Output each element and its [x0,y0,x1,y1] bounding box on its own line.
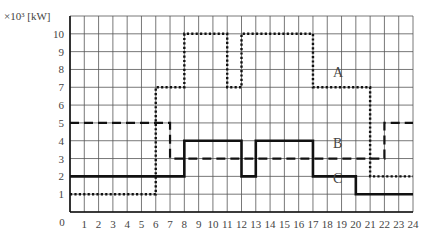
y-tick-label: 2 [59,170,65,182]
x-tick-label: 23 [393,218,405,230]
x-tick-label: 18 [322,218,334,230]
x-tick-label: 6 [153,218,159,230]
x-tick-label: 14 [265,218,277,230]
load-curve-chart: 1234567891011121314151617181920212223241… [0,0,422,235]
y-tick-label: 6 [59,99,65,111]
x-tick-label: 15 [279,218,291,230]
series-label-c: C [333,171,342,186]
x-tick-label: 24 [408,218,420,230]
x-tick-label: 8 [182,218,188,230]
x-tick-label: 22 [379,218,390,230]
y-tick-label: 5 [59,117,65,129]
x-tick-label: 17 [307,218,319,230]
x-tick-label: 1 [82,218,88,230]
y-tick-label: 1 [59,188,65,200]
x-tick-label: 21 [365,218,376,230]
x-tick-label: 12 [236,218,247,230]
y-tick-label: 10 [53,28,65,40]
y-tick-label: 4 [59,135,65,147]
x-tick-label: 20 [350,218,362,230]
x-tick-label: 2 [96,218,102,230]
x-tick-label: 13 [250,218,262,230]
x-tick-label: 3 [110,218,116,230]
y-tick-label: 7 [59,81,65,93]
tick-labels: 1234567891011121314151617181920212223241… [53,28,419,230]
x-tick-label: 19 [336,218,348,230]
y-tick-label: 3 [59,153,65,165]
x-tick-label: 9 [196,218,202,230]
series-labels: ABC [333,65,344,187]
origin-label: 0 [59,216,65,228]
y-tick-label: 9 [59,46,65,58]
x-tick-label: 4 [124,218,130,230]
y-tick-label: 8 [59,63,65,75]
x-tick-label: 16 [293,218,305,230]
y-axis-label: ×10³ [kW] [4,10,50,22]
x-tick-label: 7 [167,218,173,230]
x-tick-label: 5 [139,218,145,230]
x-tick-label: 10 [207,218,219,230]
x-tick-label: 11 [222,218,233,230]
series-label-a: A [333,65,344,80]
series-label-b: B [333,136,342,151]
